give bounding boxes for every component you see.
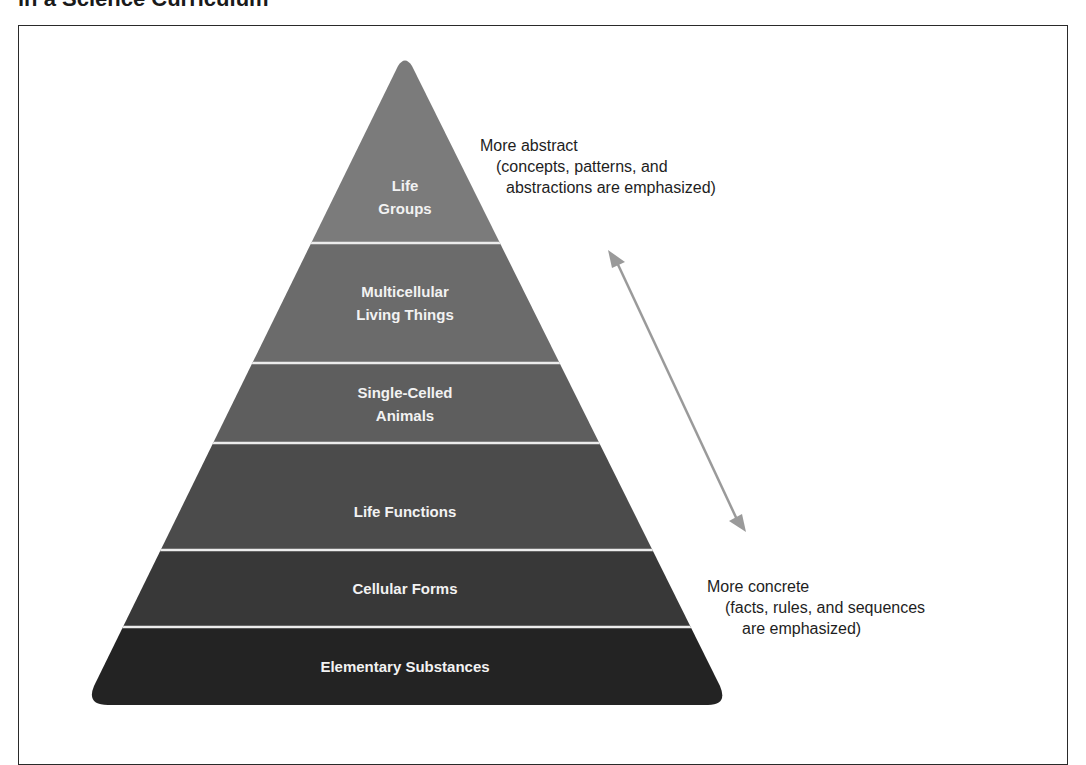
tier-label-single-celled: Single-Celled Animals <box>357 381 452 427</box>
tier-label-line: Cellular Forms <box>352 577 457 600</box>
annotation-detail: abstractions are emphasized) <box>480 177 716 198</box>
annotation-more-abstract: More abstract (concepts, patterns, and a… <box>480 135 716 198</box>
tier-label-line: Animals <box>357 404 452 427</box>
tier-label-line: Groups <box>378 197 431 220</box>
tier-multicellular <box>0 243 1086 363</box>
annotation-heading: More concrete <box>707 576 925 597</box>
tier-label-cellular-forms: Cellular Forms <box>352 577 457 600</box>
tier-elementary-substances <box>0 627 1086 707</box>
tier-label-line: Elementary Substances <box>320 655 489 678</box>
annotation-more-concrete: More concrete (facts, rules, and sequenc… <box>707 576 925 639</box>
tier-label-line: Single-Celled <box>357 381 452 404</box>
annotation-detail: (concepts, patterns, and <box>480 156 716 177</box>
annotation-detail: are emphasized) <box>707 618 925 639</box>
tier-label-life-groups: Life Groups <box>378 174 431 220</box>
tier-label-line: Life Functions <box>354 500 457 523</box>
tier-label-line: Life <box>378 174 431 197</box>
tier-single-celled <box>0 363 1086 443</box>
tier-label-elementary-substances: Elementary Substances <box>320 655 489 678</box>
annotation-detail: (facts, rules, and sequences <box>707 597 925 618</box>
tier-label-line: Living Things <box>356 303 454 326</box>
tier-label-line: Multicellular <box>356 280 454 303</box>
tier-life-functions <box>0 443 1086 550</box>
tier-label-multicellular: Multicellular Living Things <box>356 280 454 326</box>
double-arrow-icon <box>608 250 746 532</box>
annotation-heading: More abstract <box>480 135 716 156</box>
tier-label-life-functions: Life Functions <box>354 500 457 523</box>
